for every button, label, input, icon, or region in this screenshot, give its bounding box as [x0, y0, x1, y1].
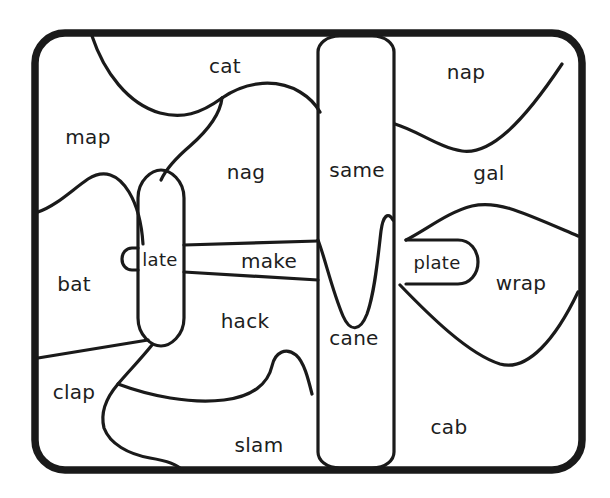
boundary-make-bottom: [184, 272, 318, 280]
region-outline-same-cane: [318, 36, 394, 468]
region-label-clap: clap: [53, 380, 96, 404]
region-label-gal: gal: [473, 161, 504, 185]
boundary-gal-wrap: [406, 204, 578, 240]
boundary-bat-clap: [38, 340, 148, 358]
region-label-slam: slam: [235, 433, 284, 457]
boundary-map-bat: [38, 174, 143, 244]
boundary-same-cane: [318, 216, 393, 328]
late-left-tab-icon: [122, 248, 138, 270]
region-label-make: make: [241, 249, 297, 273]
region-label-map: map: [65, 125, 110, 149]
region-label-bat: bat: [57, 272, 91, 296]
region-label-hack: hack: [221, 309, 270, 333]
region-label-cat: cat: [209, 54, 241, 78]
boundary-cat-nag: [222, 83, 320, 112]
boundary-hack-slam: [118, 351, 312, 401]
region-label-cane: cane: [329, 326, 378, 350]
boundary-nag-map: [161, 98, 222, 180]
boundary-map-cat: [92, 36, 222, 115]
region-label-same: same: [329, 158, 385, 182]
region-label-wrap: wrap: [496, 271, 547, 295]
word-map-diagram: cat nap map nag same gal late make plate…: [0, 0, 610, 498]
region-label-late: late: [142, 249, 177, 270]
region-label-cab: cab: [431, 415, 468, 439]
region-label-nap: nap: [447, 60, 486, 84]
diagram-canvas: [0, 0, 610, 498]
boundary-wrap-cab: [400, 285, 578, 365]
region-label-plate: plate: [413, 252, 460, 273]
region-label-nag: nag: [227, 160, 266, 184]
boundary-make-top: [184, 241, 318, 245]
boundary-clap-slam: [103, 345, 182, 470]
